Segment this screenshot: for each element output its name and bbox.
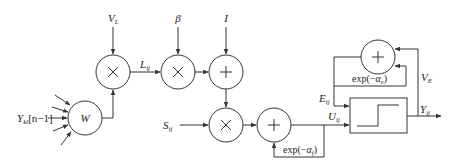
feedback-input-label: Ykl[n−1]: [17, 112, 53, 126]
neuron-block-diagram: Ykl[n−1] W VL Lij β I Sij: [0, 0, 453, 165]
input-arrow: [52, 107, 68, 112]
exp-alpha-f-label: exp(−αf): [283, 144, 317, 157]
e-ij-label: Eij: [318, 92, 330, 106]
input-arrow: [55, 95, 70, 105]
w-to-mult1-line: [102, 90, 113, 118]
s-ij-label: Sij: [163, 119, 172, 133]
weight-symbol: W: [80, 112, 90, 124]
input-arrow: [53, 125, 68, 131]
v-e-label: VE: [421, 71, 433, 85]
i-label: I: [223, 12, 229, 24]
exp-alpha-e-label: exp(−αe): [352, 73, 387, 86]
u-ij-label: Uij: [328, 110, 340, 124]
l-ij-label: Lij: [139, 58, 150, 72]
beta-label: β: [174, 12, 181, 24]
v-l-label: VL: [108, 12, 119, 26]
y-ij-label: Yij: [420, 103, 430, 117]
input-arrow: [61, 132, 71, 145]
